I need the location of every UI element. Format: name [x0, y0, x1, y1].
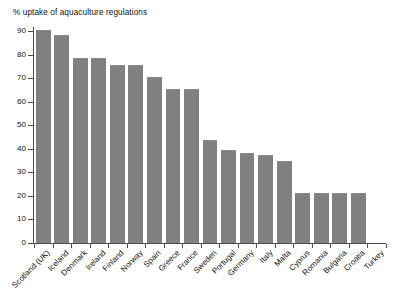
bar-slot [54, 31, 69, 243]
y-axis-tick [28, 31, 33, 32]
bar-slot [128, 31, 143, 243]
x-axis-tick [367, 244, 368, 248]
y-axis-tick-label: 90 [2, 27, 26, 35]
bar-slot [332, 31, 347, 243]
y-axis-tick-label: 40 [2, 145, 26, 153]
bar-slot [295, 31, 310, 243]
y-axis-tick-label: 10 [2, 215, 26, 223]
y-axis-tick [28, 149, 33, 150]
x-axis-tick [293, 244, 294, 248]
bar [277, 161, 292, 243]
bar-chart: % uptake of aquaculture regulations 0102… [0, 0, 393, 306]
y-axis-tick-label: 20 [2, 192, 26, 200]
y-axis-tick-label: 50 [2, 121, 26, 129]
x-axis-tick [275, 244, 276, 248]
y-axis-tick-label: 0 [2, 239, 26, 247]
y-axis-tick-label: 30 [2, 168, 26, 176]
x-axis-tick [71, 244, 72, 248]
bar-slot [166, 31, 181, 243]
y-axis-tick-label: 60 [2, 98, 26, 106]
x-axis-tick [201, 244, 202, 248]
y-axis-tick-label: 70 [2, 74, 26, 82]
y-axis-tick [28, 78, 33, 79]
x-axis-tick [108, 244, 109, 248]
bar [351, 193, 366, 243]
x-axis-tick [219, 244, 220, 248]
x-axis-tick [145, 244, 146, 248]
x-axis-tick [127, 244, 128, 248]
bar [54, 35, 69, 243]
bar [295, 193, 310, 243]
bar-slot [351, 31, 366, 243]
x-axis-tick [386, 244, 387, 248]
bar [73, 58, 88, 243]
x-axis-tick [349, 244, 350, 248]
bar-slot [73, 31, 88, 243]
bar [147, 77, 162, 243]
bar-slot [369, 31, 384, 243]
bar [332, 193, 347, 243]
bar-slot [147, 31, 162, 243]
y-axis-tick [28, 102, 33, 103]
x-axis-line [34, 243, 386, 244]
y-axis-tick [28, 55, 33, 56]
bar-slot [203, 31, 218, 243]
bar-slot [314, 31, 329, 243]
y-axis-tick [28, 125, 33, 126]
x-axis-tick [34, 244, 35, 248]
x-axis-tick [90, 244, 91, 248]
y-axis-tick [28, 172, 33, 173]
bar [128, 65, 143, 243]
x-axis-tick [53, 244, 54, 248]
bar-slot [36, 31, 51, 243]
x-axis-tick [238, 244, 239, 248]
bar [314, 193, 329, 243]
bar [166, 89, 181, 243]
y-axis-tick-label: 80 [2, 51, 26, 59]
x-axis-tick [256, 244, 257, 248]
x-axis-tick [164, 244, 165, 248]
bar [110, 65, 125, 243]
bar [203, 140, 218, 243]
bar-slot [277, 31, 292, 243]
bar-series [34, 31, 386, 243]
y-axis-tick [28, 196, 33, 197]
bar-slot [110, 31, 125, 243]
x-axis-tick [182, 244, 183, 248]
bar-slot [258, 31, 273, 243]
bar-slot [221, 31, 236, 243]
bar-slot [240, 31, 255, 243]
y-axis-tick [28, 243, 33, 244]
bar [91, 58, 106, 243]
bar [240, 153, 255, 244]
bar [184, 89, 199, 243]
bar [258, 155, 273, 243]
x-axis-tick [312, 244, 313, 248]
x-axis-tick [330, 244, 331, 248]
chart-title: % uptake of aquaculture regulations [13, 8, 147, 17]
y-axis-tick [28, 219, 33, 220]
bar [36, 30, 51, 243]
bar-slot [91, 31, 106, 243]
bar-slot [184, 31, 199, 243]
bar [221, 150, 236, 243]
